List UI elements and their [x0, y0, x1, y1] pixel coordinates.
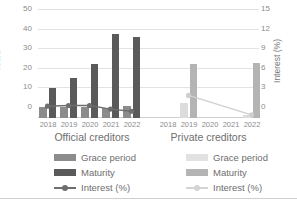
- cat-private-2018: 2018: [157, 120, 179, 129]
- bar-group-private-2020: [200, 9, 221, 118]
- left-tick-20: 20: [10, 64, 32, 72]
- bar-grace-period: [81, 107, 89, 118]
- legend-item-private-grace[interactable]: Grace period: [186, 150, 268, 165]
- left-tick-30: 30: [10, 44, 32, 52]
- legend-label-official-interest: Interest (%): [81, 182, 130, 193]
- left-tick-40: 40: [10, 25, 32, 33]
- bar-maturity: [91, 64, 98, 118]
- left-tick-50: 50: [10, 5, 32, 13]
- bar-grace-period: [243, 115, 251, 118]
- cat-private-2021: 2021: [220, 120, 242, 129]
- right-tick-15: 15: [261, 5, 285, 13]
- bar-group-official-2022: [122, 9, 143, 118]
- footer-divider: [0, 198, 297, 199]
- cat-private-2020: 2020: [199, 120, 221, 129]
- swatch-private-maturity-icon: [186, 169, 208, 176]
- bar-grace-period: [39, 107, 47, 118]
- bar-maturity: [190, 64, 197, 118]
- cat-official-2021: 2021: [100, 120, 122, 129]
- bar-grace-period: [123, 106, 131, 118]
- cat-official-2020: 2020: [79, 120, 101, 129]
- cat-official-2022: 2022: [121, 120, 143, 129]
- chart-root: 50 40 30 20 10 0 15 12 9 6 3 0 Years Int…: [0, 0, 297, 201]
- right-tick-3: 3: [261, 83, 285, 91]
- cat-private-2019: 2019: [178, 120, 200, 129]
- bar-maturity: [70, 78, 77, 118]
- panel-official-creditors: [38, 9, 146, 118]
- legend-item-private-interest[interactable]: Interest (%): [186, 180, 268, 195]
- bar-group-private-2019: [179, 9, 200, 118]
- bar-group-private-2022: [242, 9, 263, 118]
- left-tick-0: 0: [10, 103, 32, 111]
- legend-private: Grace period Maturity Interest (%): [186, 150, 268, 195]
- cat-private-2022: 2022: [241, 120, 263, 129]
- panel-private-creditors: [158, 9, 259, 118]
- legend-item-official-grace[interactable]: Grace period: [54, 150, 136, 165]
- swatch-official-grace-icon: [54, 154, 76, 161]
- legend-label-private-interest: Interest (%): [213, 182, 262, 193]
- swatch-official-maturity-icon: [54, 169, 76, 176]
- right-tick-12: 12: [261, 25, 285, 33]
- cat-official-2019: 2019: [58, 120, 80, 129]
- legend-label-private-grace: Grace period: [213, 152, 268, 163]
- bar-group-official-2020: [80, 9, 101, 118]
- bar-group-private-2021: [221, 9, 242, 118]
- left-axis-title: Years: [0, 50, 2, 71]
- left-tick-10: 10: [10, 83, 32, 91]
- bar-maturity: [253, 63, 260, 118]
- legend-item-official-maturity[interactable]: Maturity: [54, 165, 136, 180]
- bar-grace-period: [102, 108, 110, 118]
- bar-group-official-2019: [59, 9, 80, 118]
- legend-label-official-grace: Grace period: [81, 152, 136, 163]
- bar-maturity: [133, 37, 140, 118]
- legend-label-official-maturity: Maturity: [81, 167, 115, 178]
- bar-grace-period: [180, 103, 188, 118]
- right-tick-0: 0: [261, 103, 285, 111]
- bar-maturity: [112, 34, 119, 118]
- swatch-private-interest-line-icon: [186, 184, 208, 191]
- legend-item-official-interest[interactable]: Interest (%): [54, 180, 136, 195]
- bar-group-official-2021: [101, 9, 122, 118]
- bar-grace-period: [60, 107, 68, 118]
- cat-official-2018: 2018: [37, 120, 59, 129]
- group-title-private: Private creditors: [158, 131, 259, 143]
- category-axis: 2018 2019 2020 2021 2022 2018 2019 2020 …: [38, 120, 259, 130]
- bar-group-private-2018: [158, 9, 179, 118]
- plot-area: [38, 9, 259, 118]
- swatch-official-interest-line-icon: [54, 184, 76, 191]
- bar-group-official-2018: [38, 9, 59, 118]
- right-axis-title: Interest (%): [272, 39, 282, 83]
- legend-label-private-maturity: Maturity: [213, 167, 247, 178]
- legend-official: Grace period Maturity Interest (%): [54, 150, 136, 195]
- legend-item-private-maturity[interactable]: Maturity: [186, 165, 268, 180]
- bar-maturity: [49, 88, 56, 118]
- group-title-official: Official creditors: [38, 131, 146, 143]
- swatch-private-grace-icon: [186, 154, 208, 161]
